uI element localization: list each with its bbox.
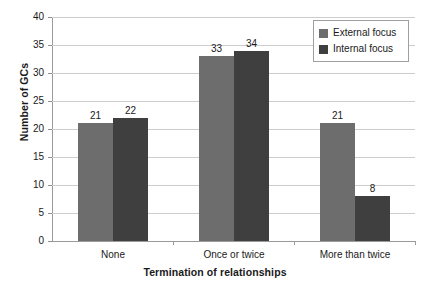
- y-tick-mark: [48, 101, 52, 102]
- category-label-1: Once or twice: [174, 249, 294, 261]
- bar-value-label: 22: [113, 105, 148, 116]
- category-label-2: More than twice: [295, 249, 415, 261]
- y-tick-label: 25: [16, 96, 44, 106]
- x-axis-line: [52, 241, 416, 242]
- y-tick-label-wrap: 5: [0, 208, 44, 218]
- gridline: [52, 17, 415, 18]
- y-tick-label: 15: [16, 152, 44, 162]
- legend-swatch-icon-external: [319, 29, 328, 38]
- bar-value-label: 21: [320, 110, 355, 121]
- y-tick-label: 35: [16, 40, 44, 50]
- y-tick-label-wrap: 30: [0, 68, 44, 78]
- bar-value-label: 21: [78, 110, 113, 121]
- y-tick-label-wrap: 35: [0, 40, 44, 50]
- bar-external-0: [78, 123, 113, 241]
- legend-item-external: External focus: [319, 25, 403, 41]
- x-axis-title: Termination of relationships: [0, 266, 430, 278]
- y-tick-label: 10: [16, 180, 44, 190]
- y-tick-mark: [48, 73, 52, 74]
- bar-value-label: 8: [355, 183, 390, 194]
- y-tick-label-wrap: 20: [0, 124, 44, 134]
- legend-label-external: External focus: [333, 28, 396, 38]
- legend: External focus Internal focus: [313, 20, 409, 62]
- category-tick: [415, 241, 416, 245]
- bar-internal-1: [234, 51, 269, 241]
- bar-chart: Number of GCs 0510152025303540 212233342…: [0, 0, 430, 290]
- y-tick-mark: [48, 213, 52, 214]
- category-tick: [294, 241, 295, 245]
- y-tick-label-wrap: 40: [0, 12, 44, 22]
- category-label-0: None: [53, 249, 173, 261]
- bar-external-2: [320, 123, 355, 241]
- y-tick-label: 40: [16, 12, 44, 22]
- bar-external-1: [199, 56, 234, 241]
- y-tick-mark: [48, 185, 52, 186]
- y-tick-mark: [48, 129, 52, 130]
- y-tick-label-wrap: 15: [0, 152, 44, 162]
- y-tick-label: 20: [16, 124, 44, 134]
- bar-value-label: 34: [234, 38, 269, 49]
- y-tick-label: 30: [16, 68, 44, 78]
- legend-item-internal: Internal focus: [319, 41, 403, 57]
- bar-internal-2: [355, 196, 390, 241]
- y-tick-label: 5: [16, 208, 44, 218]
- bar-internal-0: [113, 118, 148, 241]
- legend-swatch-icon-internal: [319, 45, 328, 54]
- y-tick-mark: [48, 45, 52, 46]
- y-tick-label: 0: [16, 236, 44, 246]
- bar-value-label: 33: [199, 43, 234, 54]
- y-tick-label-wrap: 0: [0, 236, 44, 246]
- y-tick-mark: [48, 157, 52, 158]
- category-tick: [173, 241, 174, 245]
- y-tick-mark: [48, 17, 52, 18]
- legend-label-internal: Internal focus: [333, 44, 393, 54]
- y-tick-mark: [48, 241, 52, 242]
- y-tick-label-wrap: 10: [0, 180, 44, 190]
- y-tick-label-wrap: 25: [0, 96, 44, 106]
